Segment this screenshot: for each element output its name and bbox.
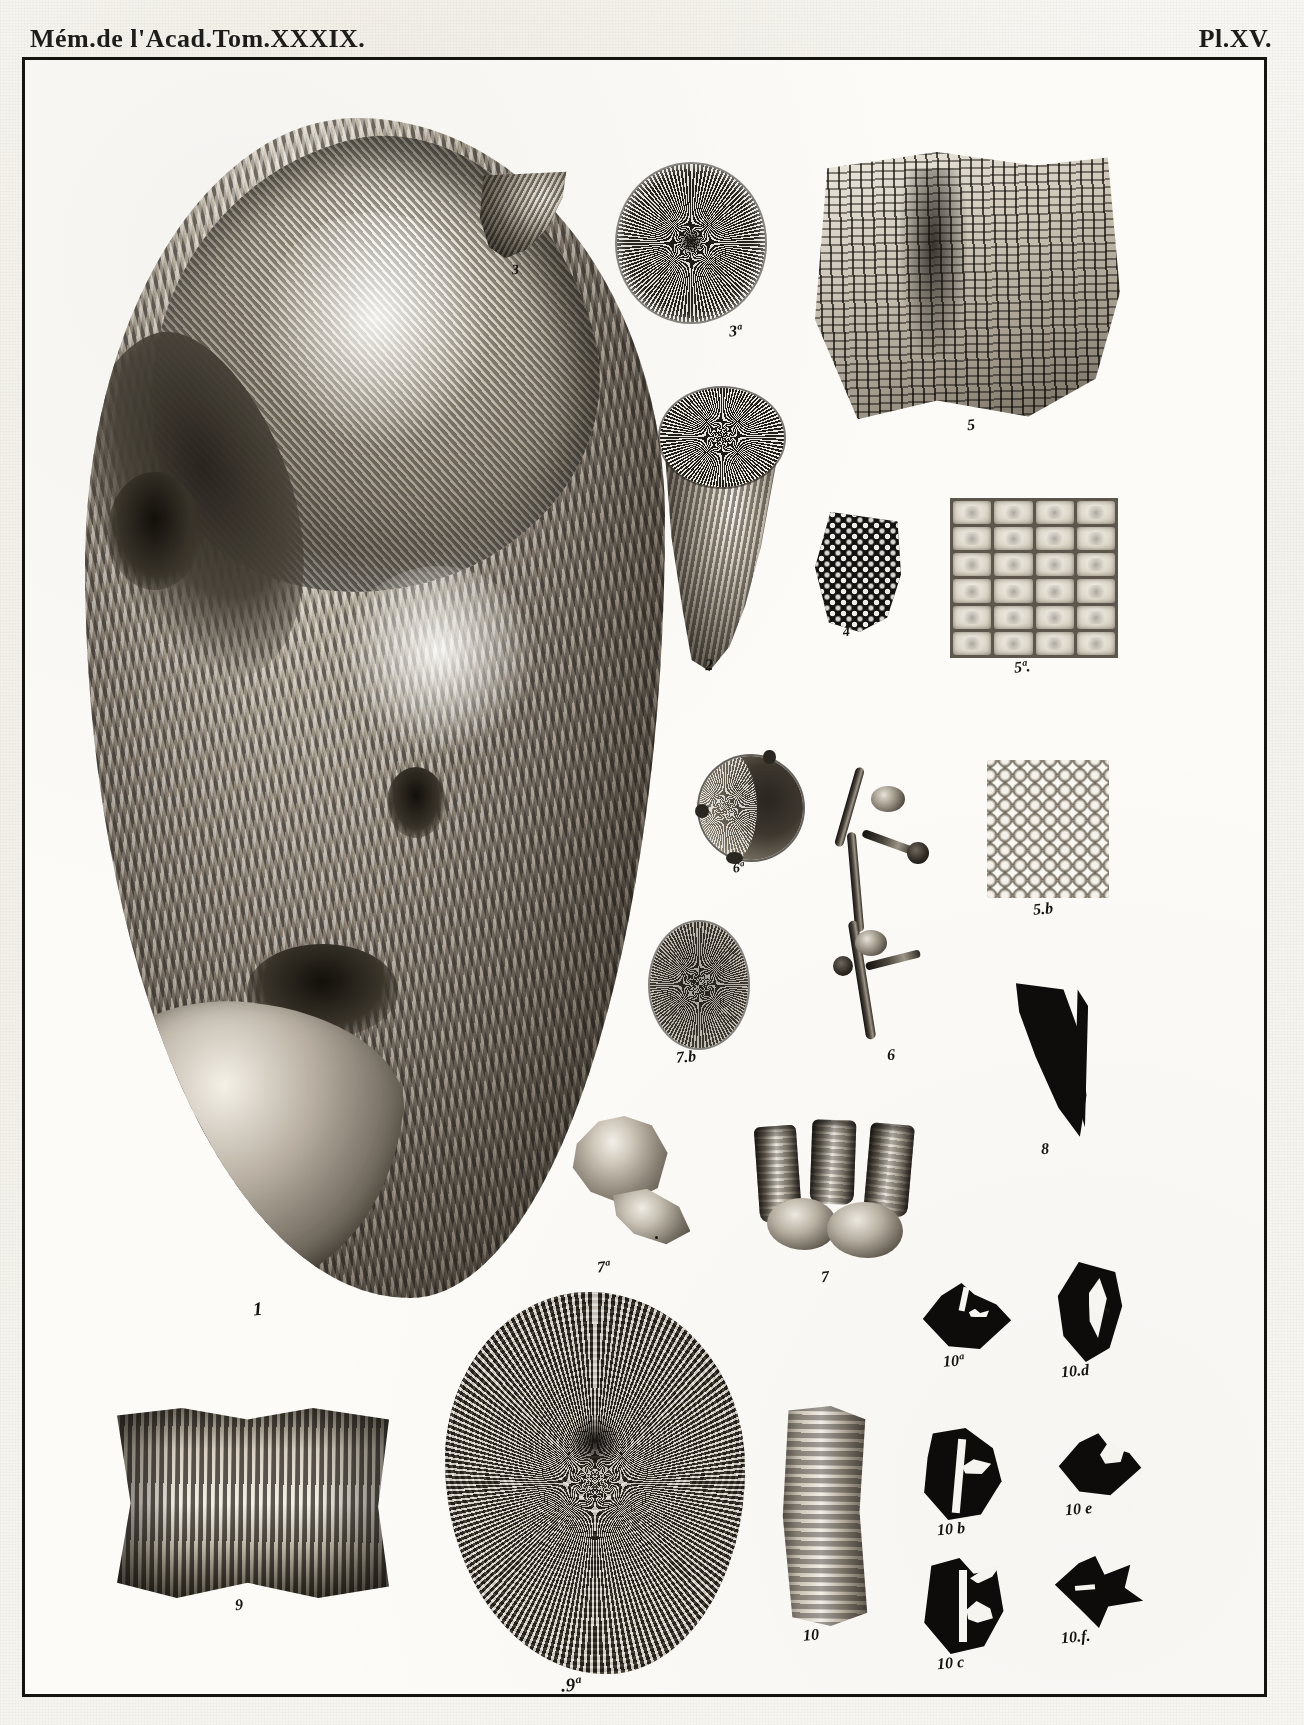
engraved-plate: Mém.de l'Acad.Tom.XXXIX. Pl.XV. 1 bbox=[0, 0, 1304, 1725]
caption-figure-8: 8 bbox=[1040, 1140, 1050, 1159]
wall-nub bbox=[763, 750, 775, 765]
calice-disc bbox=[617, 164, 765, 322]
coral-bud-lower bbox=[855, 930, 887, 956]
plate-header-left: Mém.de l'Acad.Tom.XXXIX. bbox=[30, 24, 365, 54]
coral-bud-side bbox=[833, 956, 853, 976]
grid-cell bbox=[994, 579, 1032, 602]
disc-centre bbox=[571, 1414, 619, 1467]
figure-7b-oval-calice: 7.b bbox=[650, 922, 748, 1048]
grid-cell bbox=[1077, 501, 1115, 524]
figure-3-small-horn-coral: 3 bbox=[478, 170, 570, 262]
fragment-bar bbox=[777, 1406, 873, 1626]
caption-figure-3a: 3ª bbox=[728, 321, 742, 340]
caption-figure-5: 5 bbox=[966, 416, 976, 435]
figure-10a-silhouette-section: 10ª bbox=[921, 1280, 1013, 1352]
grid-cell bbox=[994, 501, 1032, 524]
caption-figure-5a: 5ª. bbox=[1013, 657, 1031, 676]
grid-cell bbox=[953, 579, 991, 602]
grid-cell bbox=[953, 606, 991, 629]
figure-4-dark-cellular-fragment: 4 bbox=[815, 512, 901, 632]
grid-cell bbox=[994, 606, 1032, 629]
cell-block bbox=[987, 760, 1109, 898]
caption-figure-10: 10 bbox=[802, 1625, 820, 1644]
caption-figure-10d: 10.d bbox=[1060, 1361, 1089, 1381]
figure-10f-silhouette-section: 10.f. bbox=[1053, 1556, 1145, 1628]
figure-10e-silhouette-section: 10 e bbox=[1057, 1432, 1143, 1498]
surface-notch bbox=[108, 472, 201, 590]
grid-cell bbox=[1036, 553, 1074, 576]
calice-rim bbox=[617, 164, 765, 322]
tube-ribbing bbox=[810, 1119, 857, 1204]
grid-cell bbox=[994, 527, 1032, 550]
coral-bud-upper bbox=[871, 786, 905, 812]
grid-cell bbox=[1036, 606, 1074, 629]
segment-body bbox=[117, 1408, 389, 1598]
cell-grid bbox=[950, 498, 1118, 658]
figure-8-dark-crescent-silhouette: 8 bbox=[1011, 980, 1093, 1140]
horn-coral-body bbox=[478, 170, 570, 262]
figure-10-pale-ribbed-fragment: 10 bbox=[777, 1406, 873, 1626]
caption-figure-10a: 10ª bbox=[942, 1351, 964, 1371]
horn-ribbing bbox=[478, 170, 570, 262]
grid-cell bbox=[1077, 579, 1115, 602]
colony-mass bbox=[815, 152, 1120, 422]
caption-figure-9a: .9ª bbox=[560, 1673, 581, 1697]
caption-figure-6a: 6ª bbox=[732, 860, 744, 877]
caption-figure-2: 2 bbox=[704, 656, 714, 675]
bar-ribbing bbox=[777, 1406, 873, 1626]
figure-2-conical-horn-coral: 2 bbox=[657, 388, 787, 678]
caption-figure-6: 6 bbox=[886, 1046, 896, 1065]
caption-figure-5b: 5.b bbox=[1032, 899, 1053, 919]
grid-cell bbox=[1036, 632, 1074, 655]
calice-mouth bbox=[660, 388, 785, 487]
figure-5b-rounded-cell-block: 5.b bbox=[987, 760, 1109, 898]
grid-cell bbox=[994, 632, 1032, 655]
figure-10c-silhouette-section: 10 c bbox=[919, 1556, 1007, 1654]
fragment-body bbox=[815, 512, 901, 632]
grid-cell bbox=[953, 632, 991, 655]
figure-5a-magnified-cell-grid: 5ª. bbox=[950, 498, 1118, 658]
figure-7a-flared-cup-coral: 7ª bbox=[563, 1116, 693, 1256]
specular-highlight bbox=[340, 566, 537, 755]
grid-cell bbox=[1077, 632, 1115, 655]
cell-pattern-b bbox=[815, 512, 901, 632]
figure-6-branching-coral-twig: 6 bbox=[831, 760, 941, 1050]
figure-9-ribbed-cylindrical-segment: 9 bbox=[117, 1408, 389, 1598]
concentric-reticulation bbox=[445, 1292, 745, 1674]
caption-figure-4: 4 bbox=[842, 624, 850, 641]
figure-10b-silhouette-section: 10 b bbox=[919, 1428, 1005, 1520]
plate-frame: 1 3 3ª 2 bbox=[22, 57, 1267, 1697]
figure-9a-reticulate-fungid-disc: .9ª bbox=[445, 1292, 745, 1674]
oval-septa bbox=[650, 922, 748, 1048]
oval-calice-body bbox=[650, 922, 748, 1048]
grid-cell bbox=[1036, 501, 1074, 524]
specular-highlight bbox=[259, 212, 491, 448]
caption-figure-3: 3 bbox=[511, 262, 519, 279]
grid-cell bbox=[953, 553, 991, 576]
caption-figure-10e: 10 e bbox=[1064, 1499, 1093, 1519]
cluster-base-right bbox=[827, 1202, 903, 1258]
branch-mid bbox=[847, 832, 865, 932]
silhouette-shape bbox=[1053, 1556, 1145, 1628]
figure-3a-radial-calice-disc: 3ª bbox=[617, 164, 765, 322]
grid-cell bbox=[994, 553, 1032, 576]
mouth-septa bbox=[660, 388, 785, 487]
ink-fleck bbox=[655, 1236, 658, 1239]
colony-shadow bbox=[900, 168, 967, 357]
grid-cell bbox=[953, 527, 991, 550]
plate-header-right: Pl.XV. bbox=[1199, 24, 1272, 54]
caption-figure-9: 9 bbox=[234, 1596, 244, 1615]
grid-cell bbox=[1077, 527, 1115, 550]
figure-10d-silhouette-section: 10.d bbox=[1055, 1262, 1125, 1362]
grid-cell bbox=[953, 501, 991, 524]
caption-figure-10b: 10 b bbox=[936, 1519, 965, 1539]
fungid-disc-body bbox=[445, 1292, 745, 1674]
silhouette-light-streak bbox=[959, 1570, 966, 1643]
calice-cup bbox=[699, 756, 803, 860]
grid-cell bbox=[1077, 606, 1115, 629]
reticulate-mesh bbox=[815, 152, 1120, 422]
corallite-tube-centre bbox=[810, 1119, 857, 1204]
cup-base-fold bbox=[610, 1189, 691, 1253]
figure-5-reticulate-bryozoan-colony: 5 bbox=[815, 152, 1120, 422]
silhouette-shape bbox=[1057, 1432, 1143, 1498]
